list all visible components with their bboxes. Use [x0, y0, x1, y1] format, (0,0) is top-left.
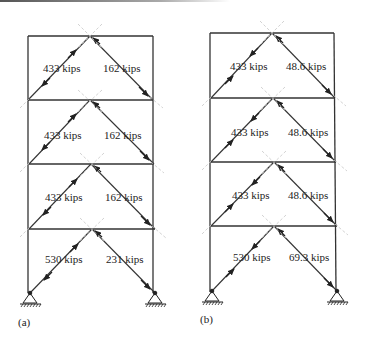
frame-a-ghost-lines	[20, 24, 166, 241]
frame-a-story1-right-force: 162 kips	[103, 63, 141, 74]
frame-b-story3-left-force: 433 kips	[232, 190, 270, 201]
frame-b-caption: (b)	[200, 314, 213, 325]
frame-b-story2-left-force: 433 kips	[231, 127, 269, 138]
frame-a-story2-right-force: 162 kips	[104, 130, 142, 141]
frame-b-story2-right-force: 48.6 kips	[288, 127, 328, 138]
frame-b-story3-right-force: 48.6 kips	[288, 190, 328, 201]
frame-a-story1-left-force: 433 kips	[43, 63, 81, 74]
frame-b-supports	[202, 289, 348, 305]
braced-frames-diagram	[0, 0, 365, 341]
frame-b-story1-left-force: 433 kips	[230, 61, 268, 72]
frame-a-story4-right-force: 231 kips	[106, 254, 144, 265]
frame-a-caption: (a)	[18, 317, 30, 328]
frame-b-story1-right-force: 48.6 kips	[286, 61, 326, 72]
frame-a-story4-left-force: 530 kips	[45, 254, 83, 265]
frame-b-story4-right-force: 69.3 kips	[289, 252, 329, 263]
frame-a-supports	[20, 291, 166, 307]
frame-a-story3-left-force: 433 kips	[45, 192, 83, 203]
frame-b-story4-left-force: 530 kips	[233, 252, 271, 263]
frame-a-story2-left-force: 433 kips	[44, 130, 82, 141]
frame-a-story3-right-force: 162 kips	[105, 192, 143, 203]
